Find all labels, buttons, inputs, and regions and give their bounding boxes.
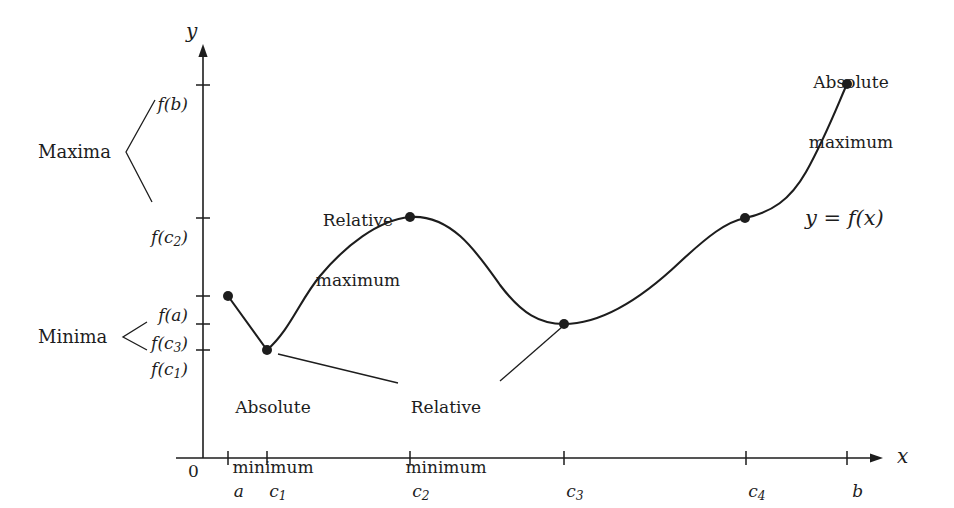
relative-maximum-annotation: Relative maximum <box>300 170 416 330</box>
x-tick-sub-c4: 4 <box>758 489 766 503</box>
curve-point-c4 <box>740 213 750 223</box>
absolute-minimum-line-2: minimum <box>215 457 331 477</box>
x-axis-label: x <box>897 445 908 469</box>
leader-relative-minimum <box>500 327 562 381</box>
origin-label: 0 <box>188 461 199 481</box>
y-tick-text-fb: f(b) <box>158 94 188 114</box>
y-tick-text-fc1: f(c <box>151 359 173 379</box>
y-tick-label-fc1: f(c1) <box>96 339 188 402</box>
relative-minimum-line-1: Relative <box>388 397 504 417</box>
absolute-maximum-line-2: maximum <box>793 132 909 152</box>
y-tick-label-fb: f(b) <box>106 74 188 134</box>
extrema-figure: y x 0 f(b) f(c2) f(a) f(c3) f(c1) a c1 c… <box>0 0 954 508</box>
x-tick-label-c4: c4 <box>724 461 768 508</box>
minima-group-label: Minima <box>38 326 107 347</box>
relative-maximum-line-2: maximum <box>300 270 416 290</box>
y-axis <box>198 44 207 458</box>
x-tick-text-c4: c <box>748 481 758 501</box>
curve-point-a <box>223 291 233 301</box>
absolute-minimum-line-1: Absolute <box>215 397 331 417</box>
curve-point-c1 <box>262 345 272 355</box>
absolute-maximum-line-1: Absolute <box>793 72 909 92</box>
x-tick-text-c3: c <box>566 481 576 501</box>
x-tick-sub-c3: 3 <box>576 489 584 503</box>
y-tick-label-fc2: f(c2) <box>96 207 188 270</box>
relative-minimum-line-2: minimum <box>388 457 504 477</box>
x-tick-label-b: b <box>827 461 867 508</box>
relative-maximum-line-1: Relative <box>300 210 416 230</box>
y-tick-text-fc2: f(c <box>151 227 173 247</box>
curve-equation-label: y = f(x) <box>805 206 884 231</box>
relative-minimum-annotation: Relative minimum <box>388 357 504 508</box>
y-tick-tail-fc1: ) <box>181 359 188 379</box>
x-tick-label-c3: c3 <box>542 461 586 508</box>
y-tick-tail-fc2: ) <box>181 227 188 247</box>
x-tick-text-b: b <box>852 481 863 501</box>
y-axis-label: y <box>186 20 197 44</box>
maxima-group-label: Maxima <box>38 141 111 162</box>
absolute-minimum-annotation: Absolute minimum <box>215 357 331 508</box>
absolute-maximum-annotation: Absolute maximum <box>793 32 909 192</box>
